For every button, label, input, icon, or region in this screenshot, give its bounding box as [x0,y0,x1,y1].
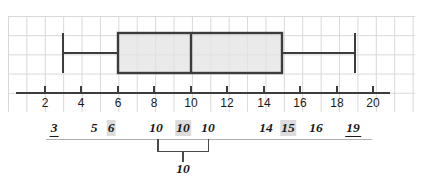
data-value-8: 16 [308,120,324,136]
bracket-right-arm [208,139,210,151]
data-value-9: 19 [345,120,361,137]
data-value-6: 14 [258,120,274,136]
axis-ticks [45,86,373,93]
axis-tick-label-12: 12 [220,96,233,110]
axis-tick-label-6: 6 [115,96,122,110]
bracket-left-arm [157,139,159,151]
data-value-7: 15 [280,120,296,136]
axis-tick-label-8: 8 [151,96,158,110]
axis-tick-label-2: 2 [42,96,49,110]
data-value-0: 3 [50,120,59,137]
interquartile-box [118,33,282,73]
axis-tick-label-20: 20 [366,96,379,110]
data-value-4: 10 [175,120,191,136]
data-value-1: 5 [90,120,99,136]
axis-tick-label-4: 4 [78,96,85,110]
boxplot-svg [0,0,422,181]
data-value-3: 10 [148,120,164,136]
data-value-2: 6 [107,120,116,136]
axis-tick-label-14: 14 [257,96,270,110]
axis-tick-label-18: 18 [330,96,343,110]
median-bracket-label: 10 [176,161,190,177]
data-value-5: 10 [200,120,216,136]
axis-tick-label-16: 16 [293,96,306,110]
axis-tick-label-10: 10 [184,96,197,110]
boxplot-figure: 2 4 6 8 10 12 14 16 18 20 3 5 6 10 10 10… [0,0,422,181]
data-values-rule [46,139,372,140]
